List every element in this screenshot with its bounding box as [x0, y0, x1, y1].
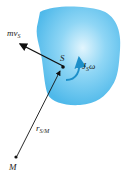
position-vector-label: rS/M	[36, 124, 49, 134]
rigid-body	[37, 7, 121, 106]
point-m-dot	[14, 155, 17, 158]
point-m-label: M	[9, 163, 17, 172]
diagram-canvas	[0, 0, 124, 174]
angular-momentum-label: JSω	[82, 62, 95, 72]
point-s-label: S	[60, 54, 65, 63]
position-vector	[17, 71, 60, 156]
point-s-dot	[61, 65, 65, 69]
momentum-label: mvS	[7, 29, 21, 39]
